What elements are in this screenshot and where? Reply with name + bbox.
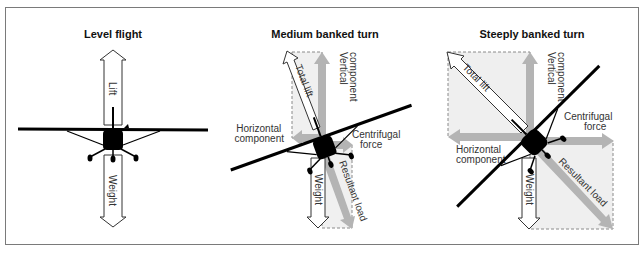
- vertical-component-label: Vertical component: [546, 52, 567, 102]
- lift-label: Lift: [107, 82, 118, 96]
- vertical-component-label: Vertical component: [338, 52, 359, 102]
- panel-title: Steeply banked turn: [479, 28, 584, 40]
- aircraft-icon: [18, 107, 208, 163]
- weight-label: Weight: [107, 175, 118, 206]
- panel-medium-banked-turn: Medium banked turn Total lift Weight Ver…: [224, 28, 423, 229]
- horizontal-component-label: Horizontal component: [235, 123, 285, 144]
- panel-title: Medium banked turn: [271, 28, 379, 40]
- weight-label: Weight: [313, 174, 324, 205]
- panel-level-flight: Level flight Lift Weight: [18, 28, 208, 227]
- panel-title: Level flight: [84, 28, 142, 40]
- centrifugal-force-label: Centrifugal force: [564, 111, 615, 132]
- panel-steeply-banked-turn: Steeply banked turn Total lift Weight Ve…: [441, 28, 621, 229]
- centrifugal-force-label: Centrifugal force: [352, 129, 403, 150]
- load-factor-diagram: Level flight Lift Weight Medium banked t…: [0, 0, 643, 253]
- weight-label: Weight: [524, 174, 535, 205]
- horizontal-component-label: Horizontal component: [456, 144, 506, 165]
